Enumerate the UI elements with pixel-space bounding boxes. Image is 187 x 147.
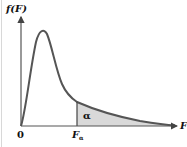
f-distribution-chart: f(F) 0 Fα α F xyxy=(0,0,187,147)
critical-value-label: Fα xyxy=(72,130,84,143)
y-axis-label: f(F) xyxy=(6,4,27,14)
shaded-region-label: α xyxy=(83,111,91,121)
origin-label: 0 xyxy=(17,130,24,140)
x-axis-label: F xyxy=(180,121,187,131)
shaded-tail-area xyxy=(77,102,175,126)
critical-value-subscript: α xyxy=(79,134,84,141)
chart-canvas xyxy=(0,0,187,147)
